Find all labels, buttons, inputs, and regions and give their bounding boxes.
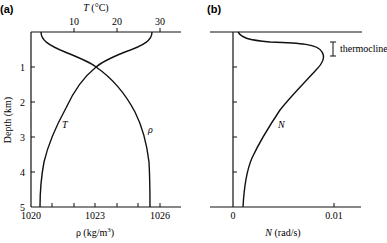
panel-a-label: (a) [0,3,14,15]
left-tick-label: 4 [20,167,25,178]
bottom-tick-label: 1020 [21,210,41,221]
left-tick-label: 3 [20,132,25,143]
curve-label-N: N [277,119,286,130]
figure: (a) T (°C) 10 20 30 1 2 3 4 5 Dept [0,0,387,243]
top-tick-label: 20 [112,16,122,27]
thermocline-bracket-icon [330,42,336,56]
bottom-tick-label-b: 0.01 [325,210,343,221]
bottom-tick-label: 1026 [150,210,170,221]
density-curve [41,32,150,207]
thermocline-annotation: thermocline [340,43,387,54]
panel-b-label: (b) [207,3,221,15]
curve-label-T: T [62,119,69,130]
bottom-axis-title-b: N (rad/s) [264,227,300,239]
top-tick-label: 10 [69,16,79,27]
top-tick-label: 30 [155,16,165,27]
bottom-tick-label: 1023 [85,210,105,221]
temperature-curve [40,32,152,207]
depth-ticks-b [233,67,237,172]
curve-label-rho: ρ [147,124,153,135]
panel-b: (b) 0 0.01 N (rad/s) N thermocline [207,3,387,239]
bottom-axis-title: ρ (kg/m3) [76,226,114,239]
left-axis-title: Depth (km) [2,97,14,143]
left-tick-label: 1 [20,62,25,73]
bottom-tick-label-b: 0 [231,210,236,221]
top-axis-title: T (°C) [83,2,108,14]
left-tick-label: 2 [20,97,25,108]
panel-a: (a) T (°C) 10 20 30 1 2 3 4 5 Dept [0,2,181,239]
